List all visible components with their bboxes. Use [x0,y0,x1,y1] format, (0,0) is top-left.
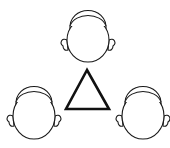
head-bottom-left-icon [7,87,61,140]
diagram-svg [0,0,170,148]
head-top-icon [61,11,115,63]
head-bottom-right-icon [116,87,170,140]
diagram-canvas [0,0,170,148]
triangle-icon [66,70,109,109]
